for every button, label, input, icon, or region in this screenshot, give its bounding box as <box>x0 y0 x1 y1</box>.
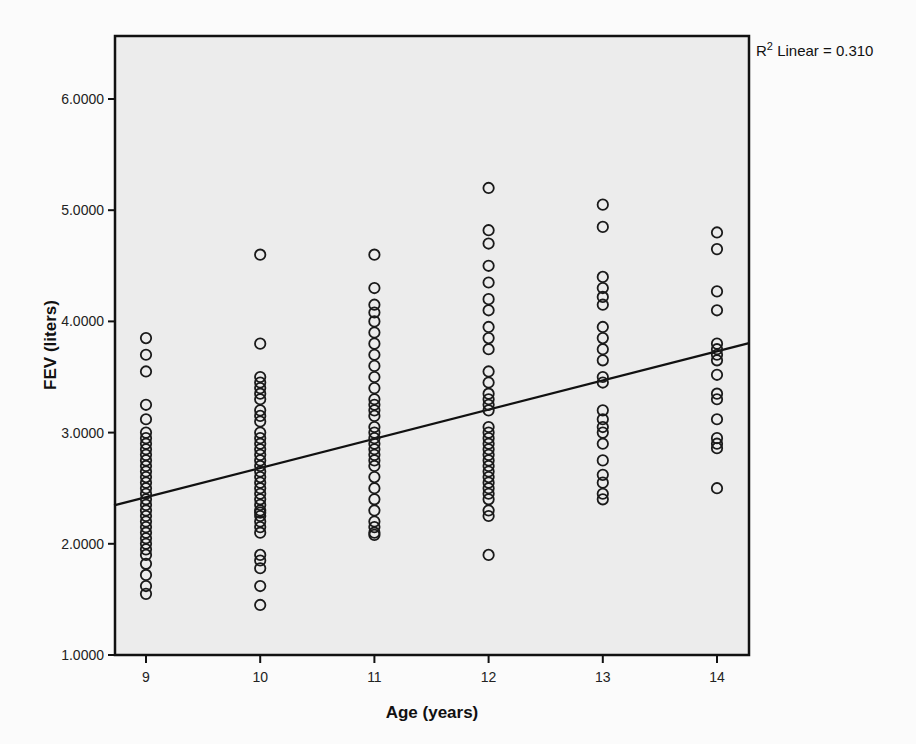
x-tick-label: 12 <box>481 669 497 685</box>
y-axis-title: FEV (liters) <box>41 300 60 390</box>
x-axis-title: Age (years) <box>386 703 479 722</box>
x-tick-label: 13 <box>595 669 611 685</box>
y-tick-label: 1.0000 <box>61 647 104 663</box>
y-tick-label: 3.0000 <box>61 425 104 441</box>
y-tick-label: 6.0000 <box>61 91 104 107</box>
x-tick-label: 14 <box>709 669 725 685</box>
r-squared-label: R2 Linear = 0.310 <box>756 40 873 59</box>
x-tick-label: 11 <box>367 669 382 685</box>
x-tick-label: 10 <box>252 669 268 685</box>
x-tick-label: 9 <box>142 669 150 685</box>
y-tick-label: 4.0000 <box>61 313 104 329</box>
y-tick-label: 2.0000 <box>61 536 104 552</box>
plot-area <box>115 36 749 655</box>
scatter-chart: 1.00002.00003.00004.00005.00006.0000 910… <box>0 0 916 744</box>
y-axis: 1.00002.00003.00004.00005.00006.0000 <box>61 91 115 663</box>
x-axis: 91011121314 <box>142 655 725 685</box>
y-tick-label: 5.0000 <box>61 202 104 218</box>
